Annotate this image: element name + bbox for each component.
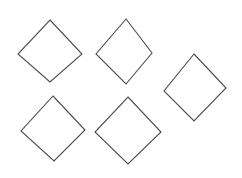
shape-canvas [0, 0, 242, 178]
image-canvas [0, 0, 242, 178]
canvas-background [0, 0, 242, 178]
